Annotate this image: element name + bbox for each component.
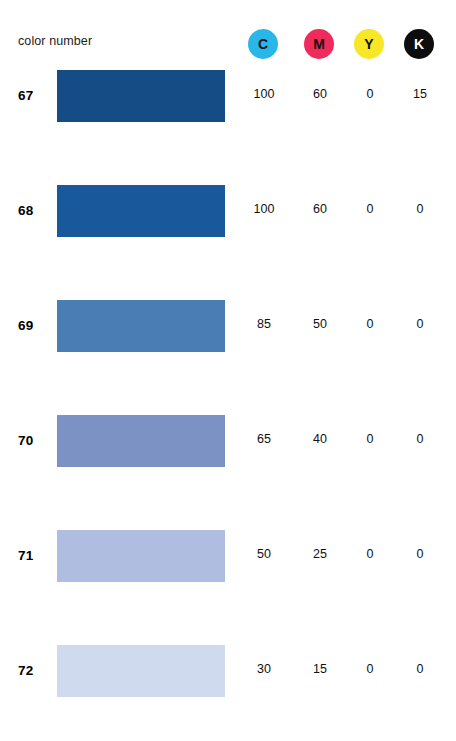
ink-channel-label: Y	[364, 37, 373, 51]
cmyk-values: 502500	[230, 547, 456, 567]
cmyk-value-c: 100	[241, 87, 287, 101]
table-row: 69855000	[0, 300, 456, 415]
cmyk-value-c: 100	[241, 202, 287, 216]
cmyk-value-y: 0	[347, 317, 393, 331]
color-number-label: 68	[18, 203, 52, 218]
cmyk-value-m: 25	[297, 547, 343, 561]
color-swatch	[57, 530, 225, 582]
cmyk-values: 10060015	[230, 87, 456, 107]
cmyk-value-k: 15	[397, 87, 443, 101]
ink-channel-black-icon: K	[404, 29, 434, 59]
table-row: 71502500	[0, 530, 456, 645]
cmyk-value-c: 30	[241, 662, 287, 676]
color-swatch	[57, 415, 225, 467]
cmyk-values: 1006000	[230, 202, 456, 222]
table-row: 70654000	[0, 415, 456, 530]
color-swatch	[57, 70, 225, 122]
cmyk-value-m: 40	[297, 432, 343, 446]
color-number-label: 72	[18, 663, 52, 678]
ink-channel-magenta-icon: M	[304, 29, 334, 59]
table-row: 6710060015	[0, 70, 456, 185]
ink-channel-label: C	[258, 37, 268, 51]
cmyk-value-m: 50	[297, 317, 343, 331]
cmyk-value-y: 0	[347, 662, 393, 676]
color-swatch	[57, 645, 225, 697]
cmyk-values: 654000	[230, 432, 456, 452]
ink-channel-legend: CMYK	[0, 29, 456, 63]
chart-header: color number CMYK	[0, 0, 456, 70]
cmyk-value-m: 60	[297, 87, 343, 101]
cmyk-values: 301500	[230, 662, 456, 682]
ink-channel-cyan-icon: C	[248, 29, 278, 59]
cmyk-value-k: 0	[397, 202, 443, 216]
cmyk-value-k: 0	[397, 317, 443, 331]
color-number-label: 70	[18, 433, 52, 448]
color-swatch	[57, 185, 225, 237]
ink-channel-label: K	[414, 37, 424, 51]
color-swatch-table: 6710060015681006000698550007065400071502…	[0, 70, 456, 741]
color-number-label: 69	[18, 318, 52, 333]
cmyk-value-y: 0	[347, 87, 393, 101]
table-row: 72301500	[0, 645, 456, 741]
cmyk-value-c: 85	[241, 317, 287, 331]
color-number-label: 67	[18, 88, 52, 103]
table-row: 681006000	[0, 185, 456, 300]
ink-channel-label: M	[313, 37, 325, 51]
cmyk-value-m: 60	[297, 202, 343, 216]
cmyk-values: 855000	[230, 317, 456, 337]
cmyk-value-y: 0	[347, 547, 393, 561]
cmyk-value-m: 15	[297, 662, 343, 676]
ink-channel-yellow-icon: Y	[354, 29, 384, 59]
cmyk-value-k: 0	[397, 547, 443, 561]
cmyk-value-y: 0	[347, 432, 393, 446]
color-number-label: 71	[18, 548, 52, 563]
cmyk-value-k: 0	[397, 662, 443, 676]
cmyk-value-k: 0	[397, 432, 443, 446]
cmyk-value-y: 0	[347, 202, 393, 216]
color-swatch	[57, 300, 225, 352]
cmyk-value-c: 65	[241, 432, 287, 446]
cmyk-value-c: 50	[241, 547, 287, 561]
